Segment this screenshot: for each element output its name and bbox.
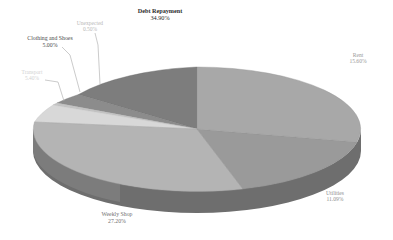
- slice-rent: [197, 67, 361, 142]
- pie-chart-graphic: [0, 0, 393, 240]
- leader-line-transport: [45, 80, 64, 101]
- pie-top-face: [33, 67, 360, 191]
- leader-line-clothing-and-shoes: [62, 47, 80, 92]
- leader-line-unexpected: [95, 33, 100, 84]
- pie-chart: Debt Repayment 34.90% Rent 15.60% Utilit…: [0, 0, 393, 240]
